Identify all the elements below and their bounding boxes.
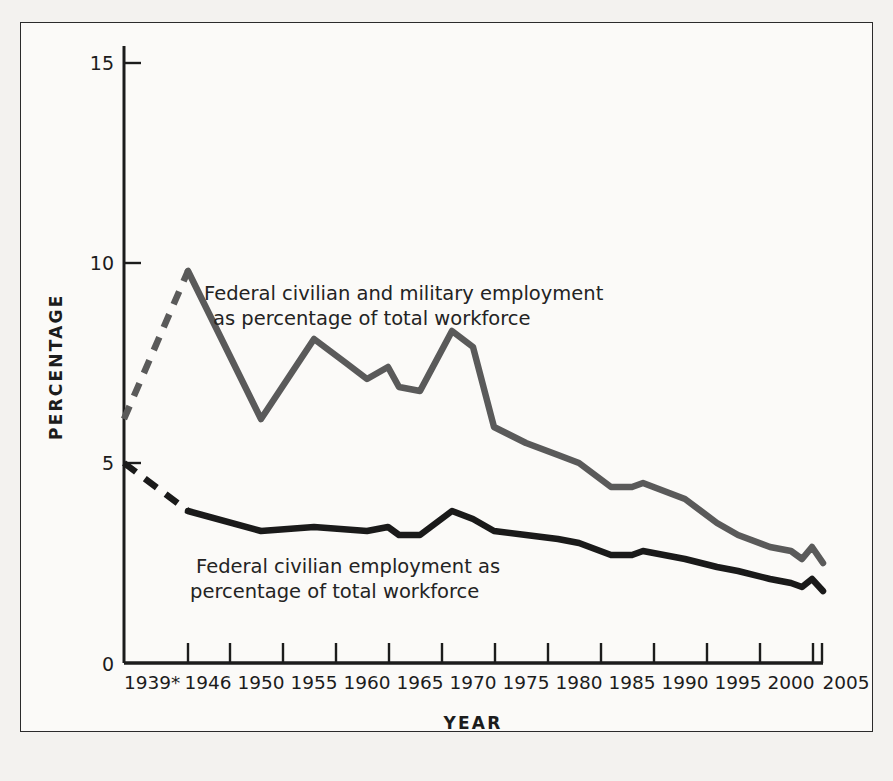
y-tick-label-10: 10 <box>90 252 114 274</box>
series-b-line <box>188 511 823 591</box>
x-tick-label-1950: 1950 <box>237 672 284 693</box>
x-tick-label-1960: 1960 <box>343 672 390 693</box>
series-b-annotation-line1: Federal civilian employment as <box>196 555 500 578</box>
x-tick-label-1970: 1970 <box>449 672 496 693</box>
x-tick-label-1965: 1965 <box>396 672 443 693</box>
x-tick-label-1975: 1975 <box>502 672 549 693</box>
y-tick-label-15: 15 <box>90 52 114 74</box>
series-b-annotation-line2: percentage of total workforce <box>190 580 479 603</box>
x-tick-label-1995: 1995 <box>714 672 761 693</box>
x-tick-label-1955: 1955 <box>290 672 337 693</box>
x-axis-ticks <box>188 643 822 663</box>
x-tick-label-1985: 1985 <box>608 672 655 693</box>
chart-page: 15 10 5 0 PERCENTAGE 1939* 1946 1950 195… <box>0 0 893 781</box>
x-tick-label-1980: 1980 <box>555 672 602 693</box>
series-a-annotation-line1: Federal civilian and military employment <box>204 282 604 305</box>
line-chart: 15 10 5 0 PERCENTAGE 1939* 1946 1950 195… <box>0 0 893 781</box>
series-a-dashed-segment <box>124 271 188 419</box>
series-b-dashed-segment <box>124 463 188 511</box>
x-tick-label-2000: 2000 <box>767 672 814 693</box>
series-a-annotation-line2: as percentage of total workforce <box>213 307 531 330</box>
x-tick-label-1990: 1990 <box>661 672 708 693</box>
y-axis-title: PERCENTAGE <box>46 294 66 440</box>
x-tick-label-2005: 2005 <box>822 672 869 693</box>
y-axis-ticks <box>124 63 141 463</box>
x-tick-label-1946: 1946 <box>184 672 231 693</box>
y-tick-label-5: 5 <box>102 452 114 474</box>
x-axis-title: YEAR <box>443 713 503 733</box>
y-tick-label-0: 0 <box>102 653 114 675</box>
x-tick-label-1939: 1939* <box>124 672 180 693</box>
